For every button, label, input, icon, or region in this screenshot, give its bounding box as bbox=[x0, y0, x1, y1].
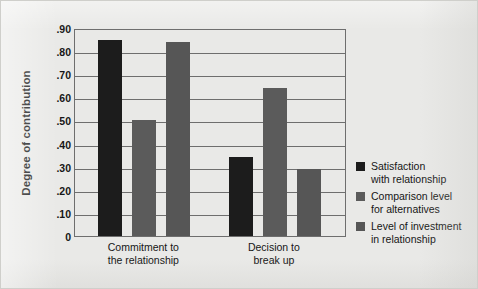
y-axis-tick-label: 0 bbox=[65, 231, 71, 243]
legend-swatch-icon bbox=[356, 162, 365, 171]
bar[interactable] bbox=[263, 88, 287, 236]
bar-group bbox=[229, 30, 321, 236]
x-axis-category-label-line: Decision to bbox=[248, 241, 300, 254]
legend-label-line: Satisfaction bbox=[371, 160, 446, 173]
legend-item[interactable]: Satisfactionwith relationship bbox=[356, 160, 474, 185]
y-axis-tick-label: .30 bbox=[56, 162, 71, 174]
legend-label: Level of investmentin relationship bbox=[371, 220, 461, 245]
x-axis-category-label-line: break up bbox=[248, 254, 300, 267]
legend-label-line: Level of investment bbox=[371, 220, 461, 233]
bar[interactable] bbox=[132, 120, 156, 236]
legend-swatch-icon bbox=[356, 192, 365, 201]
legend-label-line: in relationship bbox=[371, 233, 461, 246]
y-axis-tick-label: .60 bbox=[56, 92, 71, 104]
y-axis-title-text: Degree of contribution bbox=[20, 70, 32, 196]
bars-layer bbox=[75, 30, 345, 236]
y-axis-tick-label: .80 bbox=[56, 46, 71, 58]
legend-label-line: Comparison level bbox=[371, 190, 452, 203]
legend-label-line: with relationship bbox=[371, 173, 446, 186]
y-axis-title: Degree of contribution bbox=[15, 29, 37, 237]
chart-legend: Satisfactionwith relationshipComparison … bbox=[356, 160, 474, 250]
bar[interactable] bbox=[166, 42, 190, 236]
chart-figure: Degree of contribution .90.80.70.60.50.4… bbox=[0, 0, 478, 289]
x-axis-category-labels: Commitment tothe relationshipDecision to… bbox=[74, 241, 346, 275]
x-axis-category-label-line: Commitment to bbox=[108, 241, 179, 254]
y-axis-tick-label: .50 bbox=[56, 115, 71, 127]
x-axis-category-label-line: the relationship bbox=[108, 254, 179, 267]
bar[interactable] bbox=[229, 157, 253, 236]
bar[interactable] bbox=[297, 169, 321, 236]
x-axis-category-label: Commitment tothe relationship bbox=[108, 241, 179, 267]
y-axis-tick-label: .40 bbox=[56, 139, 71, 151]
legend-item[interactable]: Comparison levelfor alternatives bbox=[356, 190, 474, 215]
y-axis-tick-label: .10 bbox=[56, 208, 71, 220]
y-axis-tick-label: .90 bbox=[56, 23, 71, 35]
legend-label-line: for alternatives bbox=[371, 203, 452, 216]
legend-label: Comparison levelfor alternatives bbox=[371, 190, 452, 215]
bar-group bbox=[98, 30, 190, 236]
legend-item[interactable]: Level of investmentin relationship bbox=[356, 220, 474, 245]
legend-label: Satisfactionwith relationship bbox=[371, 160, 446, 185]
y-axis-tick-label: .20 bbox=[56, 185, 71, 197]
y-axis-tick-labels: .90.80.70.60.50.40.30.20.100 bbox=[39, 23, 71, 243]
bar[interactable] bbox=[98, 40, 122, 236]
plot-area bbox=[74, 29, 346, 237]
legend-swatch-icon bbox=[356, 222, 365, 231]
x-axis-category-label: Decision tobreak up bbox=[248, 241, 300, 267]
y-axis-tick-label: .70 bbox=[56, 69, 71, 81]
